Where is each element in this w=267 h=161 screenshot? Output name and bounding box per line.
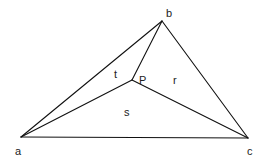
edge-aP xyxy=(21,80,132,137)
region-label-r: r xyxy=(173,74,177,86)
region-label-s: s xyxy=(124,106,130,118)
vertex-label-b: b xyxy=(166,7,172,19)
triangle-diagram: a b c P t r s xyxy=(0,0,267,161)
edge-ac xyxy=(21,137,248,138)
edge-bP xyxy=(132,21,162,80)
vertex-label-c: c xyxy=(247,145,253,157)
edge-cP xyxy=(132,80,248,138)
region-label-t: t xyxy=(114,68,117,80)
point-label-P: P xyxy=(139,74,146,86)
vertex-label-a: a xyxy=(15,145,22,157)
